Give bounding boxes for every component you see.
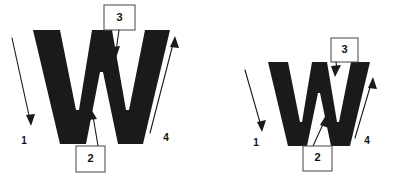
annotation-label-right-4: 4 [364,135,370,146]
annotation-label-left-3: 3 [116,11,122,23]
annotation-label-left-2: 2 [87,152,93,164]
figure-root: 1 2 3 4 [0,0,396,176]
annotation-label-left-4: 4 [163,132,169,143]
annotation-label-right-1: 1 [253,137,259,148]
figure-canvas: 1 2 3 4 [0,0,396,176]
annotation-label-right-3: 3 [341,43,347,55]
annotation-label-left-1: 1 [21,135,27,146]
annotation-label-right-2: 2 [314,151,320,163]
